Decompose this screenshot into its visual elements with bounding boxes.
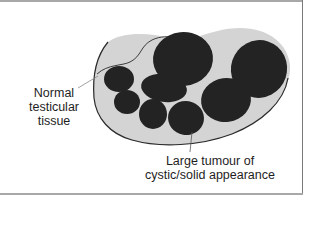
label-large-tumour: Large tumour of cystic/solid appearance (124, 154, 296, 182)
label-line: cystic/solid appearance (124, 168, 296, 182)
label-line: testicular (26, 100, 82, 114)
nodule (114, 90, 140, 114)
label-line: Large tumour of (124, 154, 296, 168)
label-line: tissue (26, 114, 82, 128)
label-line: Normal (26, 86, 82, 100)
nodule (139, 99, 167, 129)
label-normal-testicular-tissue: Normal testicular tissue (26, 86, 82, 128)
nodule (104, 66, 134, 92)
